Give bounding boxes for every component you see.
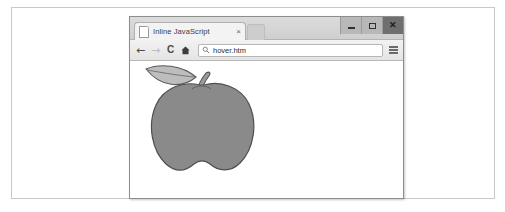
browser-page-content: [130, 61, 403, 197]
magnifier-icon: [202, 46, 210, 54]
menu-line-2: [389, 49, 398, 51]
browser-window: Inline JavaScript × ✕ ←: [129, 16, 404, 199]
new-tab-button[interactable]: [247, 24, 265, 40]
close-window-button[interactable]: ✕: [382, 17, 403, 34]
browser-toolbar: ← → C hover.htm: [130, 40, 403, 61]
browser-tab-inline-javascript[interactable]: Inline JavaScript ×: [134, 22, 246, 40]
window-controls: ✕: [340, 17, 403, 34]
back-button[interactable]: ←: [133, 43, 148, 58]
browser-tabstrip: Inline JavaScript × ✕: [130, 17, 403, 40]
maximize-button[interactable]: [361, 17, 382, 34]
minimize-icon: [348, 27, 355, 29]
browser-tab-label: Inline JavaScript: [153, 27, 236, 36]
close-window-icon: ✕: [389, 21, 397, 30]
forward-button[interactable]: →: [148, 43, 163, 58]
address-bar[interactable]: hover.htm: [198, 44, 383, 57]
minimize-button[interactable]: [340, 17, 361, 34]
close-icon[interactable]: ×: [236, 28, 242, 36]
menu-line-1: [389, 46, 398, 48]
arrow-left-icon: ←: [136, 45, 145, 56]
maximize-icon: [369, 23, 376, 29]
home-button[interactable]: [178, 43, 193, 58]
menu-line-3: [389, 52, 398, 54]
home-icon: [180, 45, 191, 56]
reload-icon: C: [167, 45, 174, 55]
reload-button[interactable]: C: [163, 43, 178, 58]
page-icon: [139, 26, 149, 38]
figure-frame: Inline JavaScript × ✕ ←: [11, 7, 495, 199]
hamburger-menu-icon[interactable]: [387, 43, 400, 58]
apple-illustration: [134, 61, 274, 177]
arrow-right-icon: →: [151, 45, 160, 56]
address-bar-value: hover.htm: [213, 46, 246, 55]
